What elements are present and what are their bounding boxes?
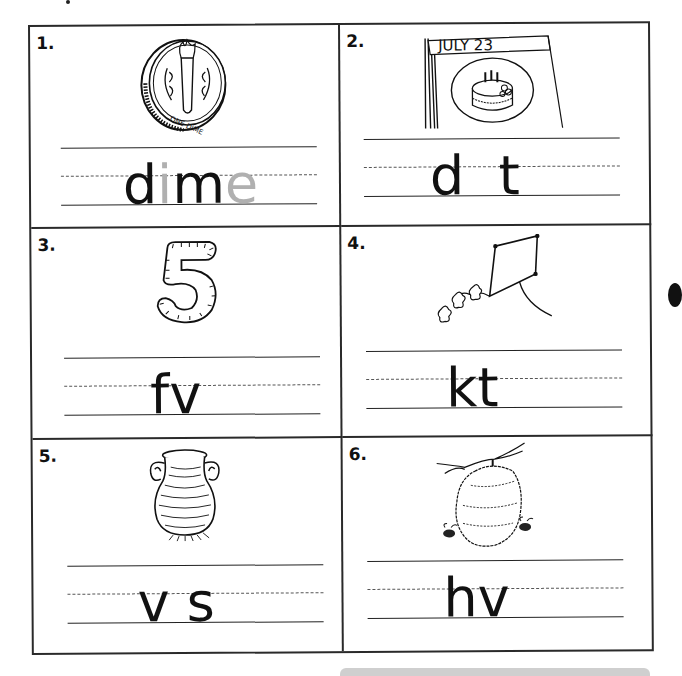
beehive-icon: [435, 441, 536, 552]
word-fv: fv: [64, 365, 320, 425]
page-mark: [66, 0, 70, 4]
top-line: [67, 564, 323, 567]
handwriting-lines: kt: [366, 349, 622, 409]
top-line: [364, 137, 620, 140]
item-1: 1. ONE DIME dime: [30, 25, 341, 229]
handwriting-lines: v s: [67, 564, 323, 624]
handwriting-lines: fv: [64, 356, 320, 416]
svg-text:JULY 23: JULY 23: [437, 36, 493, 54]
word-dime: dime: [61, 155, 317, 215]
item-number: 4.: [347, 233, 365, 253]
word-vs: v s: [67, 573, 323, 633]
vase-icon: [145, 447, 226, 542]
item-3: 3. fv: [31, 227, 342, 440]
item-6: 6. hv: [343, 436, 654, 651]
word-kt: kt: [366, 358, 622, 418]
hole-punch-mark: [668, 283, 682, 307]
top-line: [367, 559, 623, 562]
footer-bar: [340, 668, 650, 676]
item-number: 1.: [36, 33, 54, 53]
number-five-icon: [153, 240, 220, 326]
item-number: 3.: [37, 235, 55, 255]
item-number: 2.: [346, 31, 364, 51]
word-dt: d t: [364, 146, 620, 206]
handwriting-lines: hv: [367, 559, 623, 619]
word-hv: hv: [367, 568, 623, 628]
handwriting-lines: dime: [61, 146, 317, 206]
worksheet-grid: 1. ONE DIME dime 2.: [28, 21, 654, 655]
birthday-calendar-icon: JULY 23: [422, 30, 568, 131]
handwriting-lines: d t: [364, 137, 620, 197]
kite-icon: [433, 234, 564, 327]
top-line: [366, 349, 622, 352]
item-5: 5. v s: [33, 438, 344, 653]
top-line: [61, 146, 317, 149]
item-number: 5.: [39, 446, 57, 466]
item-4: 4. kt: [341, 225, 652, 438]
item-number: 6.: [349, 444, 367, 464]
dime-coin-icon: ONE DIME: [125, 28, 246, 141]
item-2: 2. JULY 23 d t: [340, 23, 651, 227]
top-line: [64, 356, 320, 359]
